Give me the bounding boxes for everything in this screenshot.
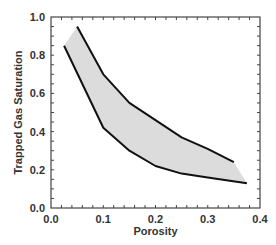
x-tick-label: 0.3 (200, 213, 215, 225)
x-tick-label: 0.0 (43, 213, 58, 225)
x-tick-label: 0.2 (148, 213, 163, 225)
y-tick-label: 0.0 (30, 202, 45, 214)
y-tick-label: 1.0 (30, 11, 45, 23)
y-tick-label: 0.6 (30, 87, 45, 99)
trapped-gas-chart: 0.00.10.20.30.4 0.00.20.40.60.81.0 Poros… (0, 0, 276, 245)
y-axis-tick-labels: 0.00.20.40.60.81.0 (30, 11, 46, 214)
x-tick-label: 0.4 (252, 213, 268, 225)
y-axis-title: Trapped Gas Saturation (12, 50, 24, 174)
y-tick-label: 0.8 (30, 49, 45, 61)
y-tick-label: 0.2 (30, 164, 45, 176)
y-tick-label: 0.4 (30, 126, 46, 138)
x-axis-tick-labels: 0.00.10.20.30.4 (43, 213, 268, 225)
x-axis-title: Porosity (133, 225, 178, 237)
x-tick-label: 0.1 (96, 213, 111, 225)
